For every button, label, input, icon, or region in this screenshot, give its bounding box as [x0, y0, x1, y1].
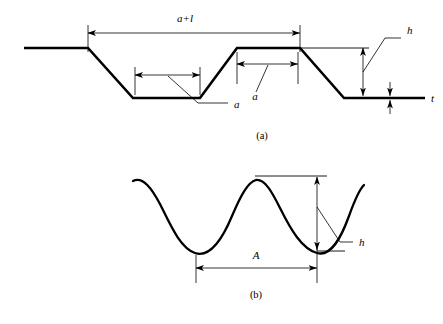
leader: [256, 65, 268, 92]
leader: [317, 207, 353, 242]
caption-panel-a: (a): [256, 130, 268, 142]
dimension-a-trough: a: [135, 67, 240, 110]
panel-a: a+l a a h: [24, 12, 435, 142]
dimension-a-plateau: a: [237, 52, 298, 102]
caption-panel-b: (b): [250, 289, 263, 301]
dimension-A-wavelength: A: [196, 243, 317, 283]
sinusoidal-profile: [133, 180, 364, 254]
label-h-amplitude: h: [359, 236, 365, 248]
label-t-thickness: t: [431, 92, 435, 104]
dimension-h-depth: h: [363, 24, 413, 96]
leader: [363, 38, 401, 72]
label-a-plateau: a: [252, 90, 258, 102]
label-h-depth: h: [407, 24, 413, 36]
label-a-plus-l: a+l: [177, 12, 193, 24]
panel-b: A h (b): [133, 176, 365, 301]
dimension-h-amplitude: h: [317, 177, 365, 250]
label-A-wavelength: A: [252, 249, 260, 261]
label-a-trough: a: [234, 98, 240, 110]
figure-root: a+l a a h: [0, 0, 443, 324]
waveform-diagram: a+l a a h: [0, 0, 443, 324]
dimension-a-plus-l: a+l: [88, 12, 300, 52]
trapezoidal-profile: [24, 48, 425, 98]
